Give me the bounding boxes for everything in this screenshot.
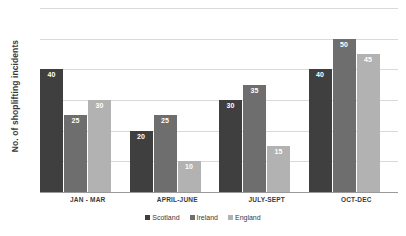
x-axis-label: JAN - MAR bbox=[40, 196, 130, 210]
bar-group: 303515 bbox=[219, 8, 309, 192]
bar-value-label: 40 bbox=[40, 71, 63, 78]
bar-value-label: 15 bbox=[267, 148, 290, 155]
legend-label: England bbox=[235, 214, 261, 221]
legend-item[interactable]: England bbox=[228, 214, 261, 221]
legend-swatch-icon bbox=[190, 215, 195, 220]
bar-chart: No. of shoplifting incidents 40253020251… bbox=[0, 0, 406, 236]
bar: 30 bbox=[219, 100, 242, 192]
legend-label: Scotland bbox=[152, 214, 179, 221]
bar: 25 bbox=[154, 115, 177, 192]
legend-swatch-icon bbox=[228, 215, 233, 220]
bar-group: 402530 bbox=[40, 8, 130, 192]
bars-layer: 402530202510303515405045 bbox=[40, 8, 398, 192]
legend-item[interactable]: Ireland bbox=[190, 214, 218, 221]
bar: 30 bbox=[88, 100, 111, 192]
bar: 35 bbox=[243, 85, 266, 192]
bar-value-label: 50 bbox=[333, 41, 356, 48]
bar-value-label: 30 bbox=[88, 102, 111, 109]
legend-swatch-icon bbox=[145, 215, 150, 220]
legend: ScotlandIrelandEngland bbox=[0, 210, 406, 224]
bar: 50 bbox=[333, 39, 356, 192]
bar-value-label: 30 bbox=[219, 102, 242, 109]
x-axis-label: OCT-DEC bbox=[309, 196, 399, 210]
bar-group: 202510 bbox=[130, 8, 220, 192]
bar-value-label: 20 bbox=[130, 133, 153, 140]
bar: 15 bbox=[267, 146, 290, 192]
legend-item[interactable]: Scotland bbox=[145, 214, 179, 221]
bar: 45 bbox=[357, 54, 380, 192]
bar: 40 bbox=[309, 69, 332, 192]
x-axis-line bbox=[40, 192, 398, 193]
bar-value-label: 40 bbox=[309, 71, 332, 78]
bar-group: 405045 bbox=[309, 8, 399, 192]
bar-value-label: 10 bbox=[178, 163, 201, 170]
x-axis-label: APRIL-JUNE bbox=[130, 196, 220, 210]
y-axis-title-text: No. of shoplifting incidents bbox=[10, 40, 20, 152]
bar: 25 bbox=[64, 115, 87, 192]
bar: 20 bbox=[130, 131, 153, 192]
x-axis-category-labels: JAN - MARAPRIL-JUNEJULY-SEPTOCT-DEC bbox=[40, 196, 398, 210]
bar: 10 bbox=[178, 161, 201, 192]
bar-value-label: 25 bbox=[154, 117, 177, 124]
bar-value-label: 25 bbox=[64, 117, 87, 124]
bar: 40 bbox=[40, 69, 63, 192]
y-axis-title: No. of shoplifting incidents bbox=[0, 0, 30, 192]
x-axis-label: JULY-SEPT bbox=[219, 196, 309, 210]
legend-label: Ireland bbox=[197, 214, 218, 221]
bar-value-label: 45 bbox=[357, 56, 380, 63]
bar-value-label: 35 bbox=[243, 87, 266, 94]
